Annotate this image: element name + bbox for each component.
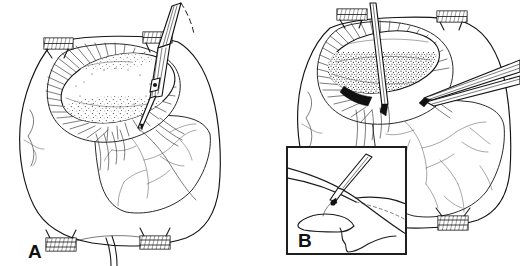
figure-root: A	[0, 0, 520, 266]
panel-b: B	[287, 3, 520, 254]
panel-a-label: A	[28, 241, 42, 262]
inset-detail-box: B	[287, 147, 406, 254]
surgical-illustration: A	[0, 0, 520, 266]
panel-b-label: B	[298, 230, 312, 251]
